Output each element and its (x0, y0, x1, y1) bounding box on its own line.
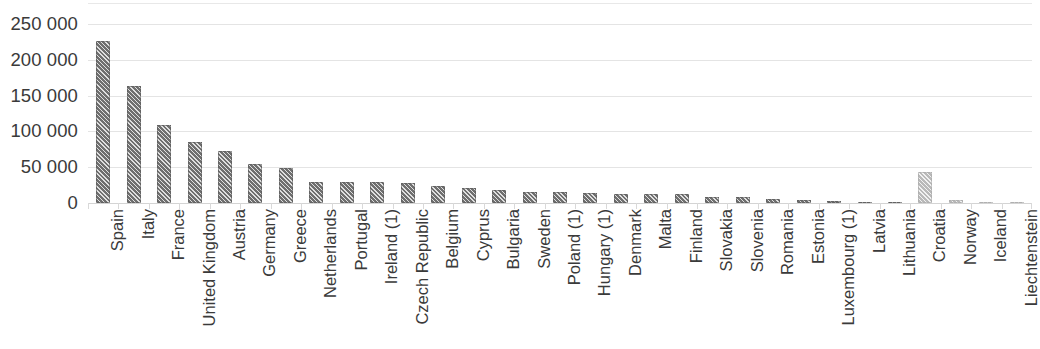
bar-united-kingdom[interactable] (188, 142, 202, 203)
bar-hungary-1[interactable] (583, 193, 597, 203)
bar-latvia[interactable] (858, 202, 872, 203)
x-axis-label-germany: Germany (261, 209, 278, 277)
bar-croatia[interactable] (918, 172, 932, 203)
bar-malta[interactable] (644, 194, 658, 203)
bar-iceland[interactable] (979, 202, 993, 203)
bar-slovenia[interactable] (736, 197, 750, 203)
x-axis-label-cyprus: Cyprus (475, 209, 492, 261)
bar-denmark[interactable] (614, 194, 628, 203)
bar-ireland-1[interactable] (370, 182, 384, 203)
bar-romania[interactable] (766, 199, 780, 203)
x-axis-label-lithuania: Lithuania (901, 209, 918, 276)
bar-france[interactable] (157, 125, 171, 203)
x-axis-label-romania: Romania (779, 209, 796, 275)
x-axis-label-austria: Austria (231, 209, 248, 260)
bar-netherlands[interactable] (309, 182, 323, 203)
bar-lithuania[interactable] (888, 202, 902, 203)
x-axis-label-poland-1: Poland (1) (566, 209, 583, 285)
x-axis-label-slovenia: Slovenia (749, 209, 766, 272)
bar-belgium[interactable] (431, 186, 445, 203)
bar-austria[interactable] (218, 151, 232, 203)
bar-poland-1[interactable] (553, 192, 567, 203)
x-axis-label-italy: Italy (140, 209, 157, 239)
bar-bulgaria[interactable] (492, 190, 506, 203)
bar-norway[interactable] (949, 200, 963, 203)
top-border-line (88, 3, 1032, 4)
x-axis-label-united-kingdom: United Kingdom (201, 209, 218, 326)
x-axis-label-denmark: Denmark (627, 209, 644, 276)
x-axis-label-slovakia: Slovakia (718, 209, 735, 271)
bar-sweden[interactable] (523, 192, 537, 203)
bar-estonia[interactable] (797, 200, 811, 203)
y-axis-label: 150 000 (10, 85, 78, 107)
x-axis-label-czech-republic: Czech Republic (414, 209, 431, 325)
x-axis-label-latvia: Latvia (871, 209, 888, 253)
x-axis-label-croatia: Croatia (931, 209, 948, 262)
bar-germany[interactable] (248, 164, 262, 203)
x-axis-label-portugal: Portugal (353, 209, 370, 270)
x-axis-label-finland: Finland (688, 209, 705, 263)
bar-liechtenstein[interactable] (1010, 202, 1024, 203)
bar-czech-republic[interactable] (401, 183, 415, 203)
x-axis-label-france: France (170, 209, 187, 260)
bar-cyprus[interactable] (462, 188, 476, 203)
bar-italy[interactable] (127, 86, 141, 203)
x-axis-label-estonia: Estonia (810, 209, 827, 264)
x-axis-label-norway: Norway (962, 209, 979, 265)
bar-spain[interactable] (96, 41, 110, 203)
x-axis-label-hungary-1: Hungary (1) (596, 209, 613, 296)
x-axis-label-ireland-1: Ireland (1) (383, 209, 400, 284)
x-axis-label-belgium: Belgium (444, 209, 461, 269)
y-axis-label: 100 000 (10, 120, 78, 142)
x-axis-label-bulgaria: Bulgaria (505, 209, 522, 270)
x-axis-label-netherlands: Netherlands (322, 209, 339, 298)
x-axis-label-malta: Malta (657, 209, 674, 249)
bar-luxembourg-1[interactable] (827, 201, 841, 203)
y-axis-label: 50 000 (21, 156, 78, 178)
y-axis: 050 000100 000150 000200 000250 000 (0, 0, 84, 349)
x-axis: SpainItalyFranceUnited KingdomAustriaGer… (88, 209, 1032, 349)
bar-series (88, 24, 1032, 203)
y-axis-label: 200 000 (10, 49, 78, 71)
bar-greece[interactable] (279, 168, 293, 203)
x-axis-label-sweden: Sweden (536, 209, 553, 269)
x-axis-label-luxembourg-1: Luxembourg (1) (840, 209, 857, 325)
x-axis-label-greece: Greece (292, 209, 309, 263)
x-axis-label-liechtenstein: Liechtenstein (1023, 209, 1040, 306)
x-axis-label-iceland: Iceland (992, 209, 1009, 262)
bar-portugal[interactable] (340, 182, 354, 203)
x-axis-label-spain: Spain (109, 209, 126, 251)
bar-finland[interactable] (675, 194, 689, 203)
bar-slovakia[interactable] (705, 197, 719, 203)
y-axis-label: 0 (68, 192, 78, 214)
y-axis-label: 250 000 (10, 13, 78, 35)
